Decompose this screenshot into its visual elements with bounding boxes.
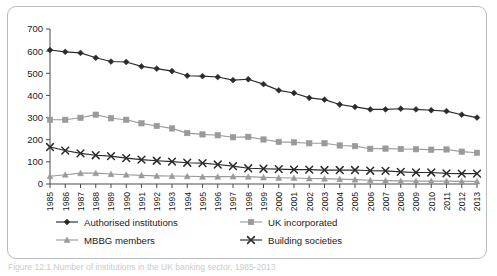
square-marker — [429, 147, 434, 152]
x-tick-label: 1995 — [198, 192, 208, 211]
y-tick-label: 200 — [27, 134, 43, 145]
x-tick-label: 2008 — [396, 192, 406, 211]
x-tick-label: 1988 — [91, 192, 101, 211]
data-point-diamond — [184, 73, 190, 79]
data-point-square — [307, 141, 312, 146]
figure-caption: Figure 12.1 Number of institutions in th… — [8, 262, 497, 275]
diamond-marker — [169, 68, 175, 74]
data-point-diamond — [230, 77, 236, 83]
data-point-diamond — [398, 106, 404, 112]
data-point-diamond — [245, 76, 251, 82]
data-point-square — [78, 115, 83, 120]
diamond-marker — [184, 73, 190, 79]
diamond-marker — [93, 55, 99, 61]
data-point-diamond — [306, 95, 312, 101]
square-marker — [154, 123, 159, 128]
x-tick-label: 1985 — [45, 192, 55, 211]
data-point-square — [248, 219, 253, 224]
y-tick-label: 700 — [27, 23, 43, 34]
x-tick-label: 1992 — [152, 192, 162, 211]
square-marker — [108, 116, 113, 121]
square-marker — [307, 141, 312, 146]
x-tick-label: 1996 — [213, 192, 223, 211]
square-marker — [78, 115, 83, 120]
legend-label: UK incorporated — [268, 217, 337, 228]
data-point-diamond — [215, 74, 221, 80]
data-point-diamond — [428, 107, 434, 113]
data-point-square — [124, 117, 129, 122]
x-tick-label: 2012 — [457, 192, 467, 211]
x-tick-label: 1997 — [228, 192, 238, 211]
square-marker — [248, 219, 253, 224]
diamond-marker — [474, 115, 480, 121]
diamond-marker — [78, 50, 84, 56]
legend-item-authorised-institutions[interactable]: Authorised institutions — [56, 217, 178, 228]
data-point-diamond — [78, 50, 84, 56]
square-marker — [169, 126, 174, 131]
legend-item-building-societies[interactable]: Building societies — [240, 235, 342, 246]
diamond-marker — [154, 66, 160, 72]
diamond-marker — [291, 90, 297, 96]
y-tick-label: 100 — [27, 156, 43, 167]
data-point-square — [459, 149, 464, 154]
x-tick-label: 2001 — [289, 192, 299, 211]
data-point-diamond — [413, 106, 419, 112]
data-point-diamond — [154, 66, 160, 72]
square-marker — [444, 147, 449, 152]
square-marker — [230, 135, 235, 140]
x-tick-label: 1991 — [137, 192, 147, 211]
x-tick-label: 2006 — [366, 192, 376, 211]
data-point-square — [337, 143, 342, 148]
square-marker — [398, 146, 403, 151]
square-marker — [474, 150, 479, 155]
diamond-marker — [200, 73, 206, 79]
data-point-square — [474, 150, 479, 155]
diamond-marker — [245, 76, 251, 82]
square-marker — [352, 143, 357, 148]
x-tick-label: 2011 — [442, 192, 452, 211]
square-marker — [383, 146, 388, 151]
data-point-diamond — [169, 68, 175, 74]
diamond-marker — [276, 87, 282, 93]
x-tick-label: 1998 — [244, 192, 254, 211]
x-tick-label: 2003 — [320, 192, 330, 211]
data-point-square — [154, 123, 159, 128]
data-point-diamond — [337, 102, 343, 108]
y-tick-label: 500 — [27, 68, 43, 79]
data-point-square — [139, 121, 144, 126]
x-tick-label: 2004 — [335, 192, 345, 211]
data-point-square — [352, 143, 357, 148]
legend-label: Building societies — [268, 235, 342, 246]
data-point-square — [47, 117, 52, 122]
legend-label: MBBG members — [84, 235, 155, 246]
diamond-marker — [444, 108, 450, 114]
square-marker — [276, 139, 281, 144]
data-point-diamond — [444, 108, 450, 114]
data-point-diamond — [64, 219, 70, 225]
square-marker — [124, 117, 129, 122]
data-point-square — [169, 126, 174, 131]
diamond-marker — [261, 81, 267, 87]
data-point-diamond — [123, 59, 129, 65]
data-point-diamond — [62, 49, 68, 55]
legend-item-mbbg-members[interactable]: MBBG members — [56, 235, 155, 246]
data-point-square — [215, 133, 220, 138]
data-point-diamond — [276, 87, 282, 93]
square-marker — [337, 143, 342, 148]
data-point-square — [429, 147, 434, 152]
data-point-square — [200, 132, 205, 137]
legend-label: Authorised institutions — [84, 217, 178, 228]
square-marker — [215, 133, 220, 138]
y-tick-label: 400 — [27, 90, 43, 101]
data-point-square — [444, 147, 449, 152]
legend-item-uk-incorporated[interactable]: UK incorporated — [240, 217, 337, 228]
figure-root: 0100200300400500600700198519861987198819… — [0, 0, 497, 276]
y-tick-label: 0 — [38, 178, 43, 189]
y-tick-label: 300 — [27, 112, 43, 123]
data-point-diamond — [322, 97, 328, 103]
series-authorised-institutions — [47, 47, 480, 120]
diamond-marker — [64, 219, 70, 225]
square-marker — [93, 112, 98, 117]
x-tick-label: 1993 — [167, 192, 177, 211]
data-point-diamond — [47, 47, 53, 53]
